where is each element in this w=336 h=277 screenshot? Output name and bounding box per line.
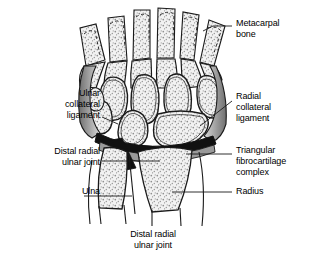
caption-distal-radial-ulnar-joint: Distal radial ulnar joint [88,229,218,251]
label-radius: Radius [236,186,326,197]
label-ulnar-collateral-ligament: Ulnar collateral ligament [4,88,100,122]
label-metacarpal-bone: Metacarpal bone [236,18,332,40]
label-distal-radial-ulnar-joint: Distal radial ulnar joint [2,146,100,168]
label-triangular-fibrocartilage-complex: Triangular fibrocartilage complex [236,145,334,179]
radius-bone [138,147,203,226]
label-radial-collateral-ligament: Radial collateral ligament [236,91,332,125]
label-ulna: Ulna [20,186,100,197]
metacarpal-bones-group [80,8,225,66]
